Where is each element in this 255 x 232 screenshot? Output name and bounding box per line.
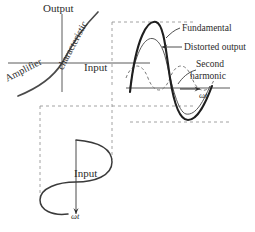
distorted-output-label: Distorted output: [184, 43, 246, 53]
input-axis-label: Input: [84, 62, 107, 73]
output-axis-label: Output: [43, 3, 74, 14]
amplifier-distortion-figure: Output Input Amplifier characteristic In…: [0, 0, 255, 232]
omega-t-label-right: ωt: [199, 91, 207, 100]
omega-t-arrow-right: [180, 87, 200, 92]
omega-t-label-bottom: ωt: [71, 212, 79, 221]
leader-fundamental: [166, 28, 180, 38]
figure-drawing: [0, 0, 255, 232]
second-harmonic-label-1: Second: [196, 60, 224, 70]
fundamental-label: Fundamental: [182, 24, 232, 34]
input-waveform-label: Input: [74, 168, 97, 179]
second-harmonic-label-2: harmonic: [190, 72, 226, 82]
